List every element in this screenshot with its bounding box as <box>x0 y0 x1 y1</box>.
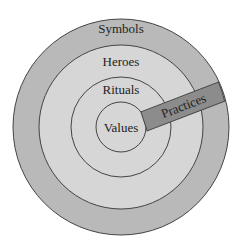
onion-diagram: Practices Symbols Heroes Rituals Values <box>0 0 240 248</box>
label-heroes: Heroes <box>103 54 140 69</box>
label-symbols: Symbols <box>98 21 144 36</box>
label-rituals: Rituals <box>103 82 140 97</box>
label-values: Values <box>104 120 139 135</box>
